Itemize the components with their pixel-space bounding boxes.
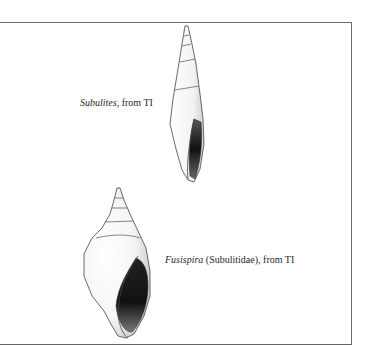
subulites-source: , from TI [117,97,153,108]
subulites-shell-illustration [160,24,210,184]
fusispira-caption: Fusispira (Subulitidae), from TI [165,254,294,266]
subulites-caption: Subulites, from TI [80,97,153,109]
fusispira-genus: Fusispira [165,254,203,265]
fusispira-shell-illustration [78,186,158,340]
fusispira-source: (Subulitidae), from TI [203,254,294,265]
subulites-genus: Subulites [80,97,117,108]
